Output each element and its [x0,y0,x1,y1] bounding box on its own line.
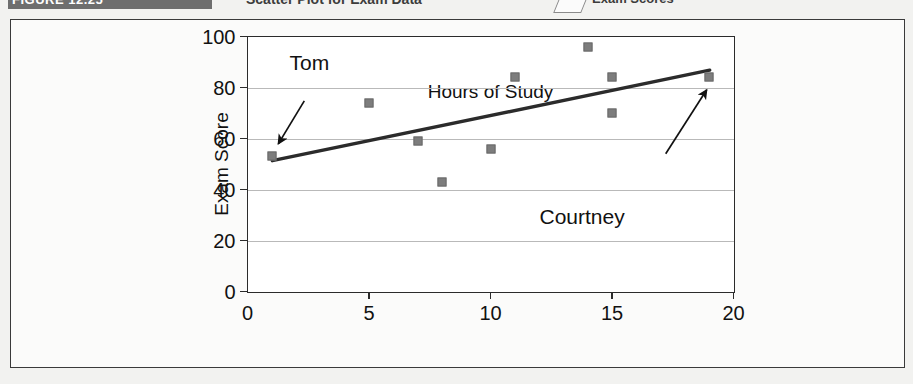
y-tick [240,36,247,38]
x-axis-title: Hours of Study [428,81,554,103]
y-tick-label: 60 [213,127,235,150]
data-point-marker [705,73,714,82]
data-point-marker [583,42,592,51]
y-tick [240,240,247,242]
y-tick-label: 100 [202,25,235,48]
y-tick-label: 0 [224,280,235,303]
gridline [248,139,734,140]
data-point-marker [608,73,617,82]
y-tick [240,87,247,89]
x-tick-label: 15 [601,302,623,325]
data-point-marker [437,177,446,186]
y-tick [240,189,247,191]
x-tick [368,292,370,299]
annotation-label-courtney: Courtney [540,205,625,229]
gridline [248,88,734,89]
x-tick-label: 20 [722,302,744,325]
data-point-marker [365,98,374,107]
parallelogram-pointer-icon [553,0,587,13]
y-tick-label: 40 [213,178,235,201]
y-tick [240,291,247,293]
data-point-marker [608,109,617,118]
data-point-marker [413,137,422,146]
scatter-plot-area: Exam Score Hours of Study 020406080100 0… [247,36,735,293]
figure-title: Scatter Plot for Exam Data [246,0,422,7]
gridline [248,241,734,242]
trend-line [248,37,734,292]
gridline [248,190,734,191]
figure-number-label: FIGURE 12.25 [12,0,103,7]
x-tick-label: 0 [242,302,253,325]
x-tick [733,292,735,299]
y-tick-label: 80 [213,76,235,99]
figure-caption-strip: FIGURE 12.25 [8,0,212,9]
data-point-marker [267,152,276,161]
annotation-label-tom: Tom [290,51,330,75]
data-point-marker [486,144,495,153]
data-point-marker [510,73,519,82]
y-tick-label: 20 [213,229,235,252]
annotation-arrows [248,37,734,292]
x-tick-label: 10 [479,302,501,325]
x-tick [490,292,492,299]
figure-frame: Exam Score Hours of Study 020406080100 0… [10,19,905,368]
x-tick-label: 5 [363,302,374,325]
x-tick [611,292,613,299]
y-tick [240,138,247,140]
legend-label: Exam Scores [592,0,674,6]
